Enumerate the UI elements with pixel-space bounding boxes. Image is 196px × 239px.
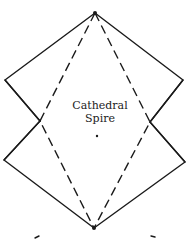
bottom-right-mark (151, 236, 155, 237)
bottom-left-mark (35, 236, 39, 238)
right-cross-line-lower (150, 122, 185, 162)
left-cross-line-lower (4, 121, 40, 160)
label-cathedral: Cathedral (2, 99, 196, 112)
right-crossing-outline (94, 122, 185, 228)
left-crossing-outline (4, 121, 94, 228)
top-apex-point (93, 11, 97, 15)
bottom-apex-point (92, 226, 96, 230)
label-spire: Spire (2, 112, 196, 125)
center-point (96, 135, 98, 137)
